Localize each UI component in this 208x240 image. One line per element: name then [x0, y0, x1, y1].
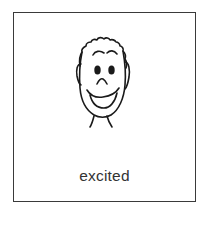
mouth-outer — [87, 88, 119, 97]
neck-left — [90, 116, 94, 127]
mouth-lower — [90, 93, 117, 108]
emotion-label: excited — [13, 167, 196, 185]
right-eye — [108, 65, 114, 74]
left-eye — [94, 65, 100, 74]
nose — [97, 79, 107, 84]
left-eyebrow — [93, 51, 104, 55]
right-eyebrow — [107, 51, 117, 54]
neck-right — [107, 116, 112, 127]
